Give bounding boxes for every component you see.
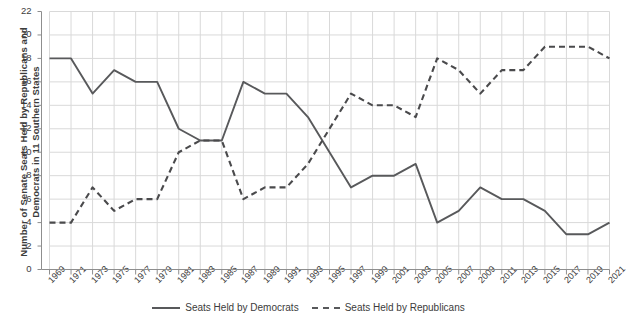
- legend-label-republicans: Seats Held by Republicans: [345, 302, 465, 313]
- legend-label-democrats: Seats Held by Democrats: [185, 302, 298, 313]
- legend-solid-line-icon: [152, 307, 180, 309]
- legend-item-democrats: Seats Held by Democrats: [152, 302, 298, 313]
- legend-dashed-line-icon: [312, 307, 340, 309]
- legend-item-republicans: Seats Held by Republicans: [312, 302, 465, 313]
- gridlines: [50, 12, 610, 270]
- axis-lines: [42, 12, 610, 270]
- chart-legend: Seats Held by Democrats Seats Held by Re…: [0, 302, 617, 313]
